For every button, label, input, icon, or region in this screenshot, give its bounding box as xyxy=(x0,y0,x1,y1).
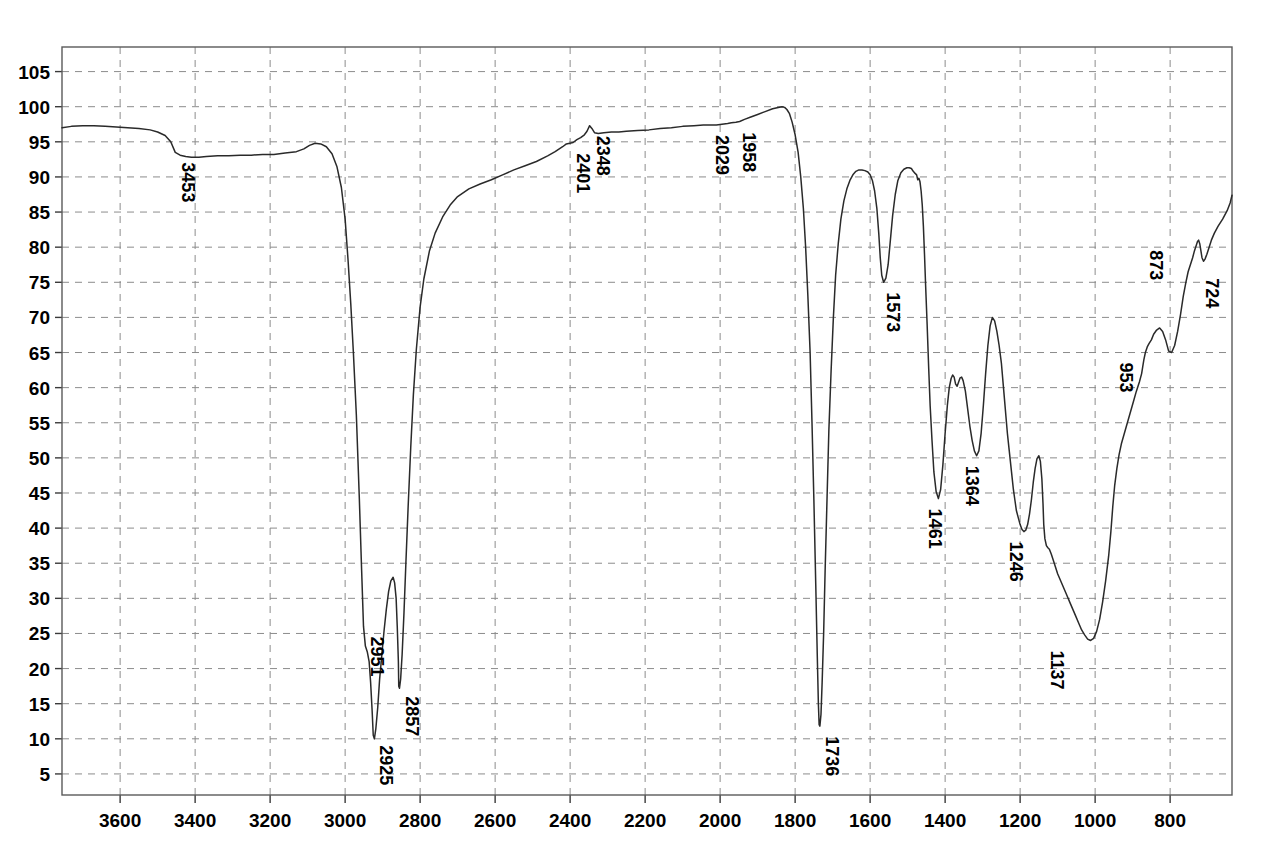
peak-label: 1573 xyxy=(883,292,903,332)
spectrum-plot: 1051009590858075706560555045403530252015… xyxy=(0,0,1266,855)
peak-label: 2857 xyxy=(402,696,422,736)
x-tick-label: 2400 xyxy=(549,810,591,831)
y-tick-label: 65 xyxy=(29,343,51,364)
peak-label: 1137 xyxy=(1047,650,1067,689)
ir-spectrum-figure: 1051009590858075706560555045403530252015… xyxy=(0,0,1266,855)
y-tick-label: 80 xyxy=(29,237,50,258)
x-tick-label: 2600 xyxy=(474,810,516,831)
peak-label: 2029 xyxy=(712,135,732,175)
x-tick-label: 3200 xyxy=(249,810,291,831)
x-axis-tick-labels: 3600340032003000280026002400220020001800… xyxy=(99,810,1186,831)
y-tick-label: 60 xyxy=(29,378,50,399)
y-tick-label: 45 xyxy=(29,483,51,504)
x-tick-label: 1200 xyxy=(999,810,1041,831)
x-tick-label: 3400 xyxy=(174,810,216,831)
y-tick-label: 35 xyxy=(29,553,51,574)
x-tick-label: 1800 xyxy=(774,810,816,831)
y-tick-label: 100 xyxy=(18,97,50,118)
y-tick-label: 90 xyxy=(29,167,50,188)
y-tick-label: 105 xyxy=(18,62,50,83)
peak-label: 2951 xyxy=(367,636,387,676)
y-tick-label: 20 xyxy=(29,659,50,680)
peak-label: 2348 xyxy=(593,136,613,176)
peak-annotations: 3453295129252857240123482029195817361573… xyxy=(178,132,1221,785)
peak-label: 1364 xyxy=(962,466,982,506)
y-tick-label: 95 xyxy=(29,132,51,153)
y-tick-label: 50 xyxy=(29,448,50,469)
x-tick-label: 2200 xyxy=(624,810,666,831)
y-axis-tick-labels: 1051009590858075706560555045403530252015… xyxy=(18,62,50,785)
y-tick-label: 5 xyxy=(39,764,50,785)
peak-label: 1461 xyxy=(925,509,945,549)
peak-label: 2925 xyxy=(376,745,396,785)
x-tick-label: 3600 xyxy=(99,810,141,831)
x-tick-label: 1600 xyxy=(849,810,891,831)
peak-label: 724 xyxy=(1202,278,1222,308)
y-tick-label: 40 xyxy=(29,518,50,539)
y-tick-label: 25 xyxy=(29,623,51,644)
x-tick-label: 1400 xyxy=(924,810,966,831)
y-tick-label: 85 xyxy=(29,202,51,223)
x-tick-label: 800 xyxy=(1154,810,1186,831)
y-tick-label: 10 xyxy=(29,729,50,750)
peak-label: 953 xyxy=(1116,363,1136,393)
x-tick-label: 2800 xyxy=(399,810,441,831)
axis-tick-marks xyxy=(55,72,1170,803)
peak-label: 1736 xyxy=(822,736,842,776)
y-tick-label: 30 xyxy=(29,588,50,609)
x-tick-label: 1000 xyxy=(1074,810,1116,831)
peak-label: 1246 xyxy=(1006,542,1026,582)
peak-label: 3453 xyxy=(178,162,198,202)
y-tick-label: 70 xyxy=(29,307,50,328)
peak-label: 873 xyxy=(1146,250,1166,280)
y-tick-label: 75 xyxy=(29,272,51,293)
x-tick-label: 2000 xyxy=(699,810,741,831)
peak-label: 1958 xyxy=(739,132,759,172)
x-tick-label: 3000 xyxy=(324,810,366,831)
y-tick-label: 55 xyxy=(29,413,51,434)
peak-label: 2401 xyxy=(573,153,593,193)
y-tick-label: 15 xyxy=(29,694,51,715)
